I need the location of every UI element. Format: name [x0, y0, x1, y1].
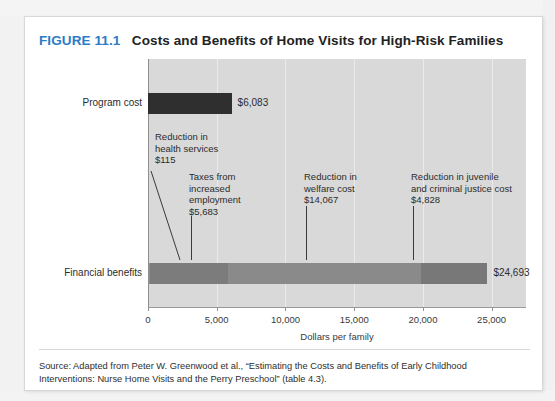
leader-line-taxes-employment: [191, 216, 192, 260]
leader-line-juvenile-justice: [413, 206, 414, 260]
figure-title: Costs and Benefits of Home Visits for Hi…: [132, 33, 503, 48]
figure-title-row: FIGURE 11.1 Costs and Benefits of Home V…: [39, 31, 503, 49]
source-note: Source: Adapted from Peter W. Greenwood …: [39, 360, 519, 385]
leader-line-health-services: [39, 59, 531, 324]
leader-line-welfare-cost: [306, 206, 307, 260]
source-separator: [39, 349, 530, 350]
page-margin-bottom: [0, 391, 555, 401]
figure-page: FIGURE 11.1 Costs and Benefits of Home V…: [0, 0, 555, 401]
page-margin-left: [0, 0, 24, 401]
figure-card: FIGURE 11.1 Costs and Benefits of Home V…: [24, 16, 543, 391]
x-axis-title: Dollars per family: [148, 331, 526, 342]
page-margin-top: [0, 0, 555, 16]
chart-plot-area: 05,00010,00015,00020,00025,000 Dollars p…: [39, 59, 531, 324]
figure-number: FIGURE 11.1: [39, 33, 120, 48]
page-margin-right: [543, 0, 555, 401]
